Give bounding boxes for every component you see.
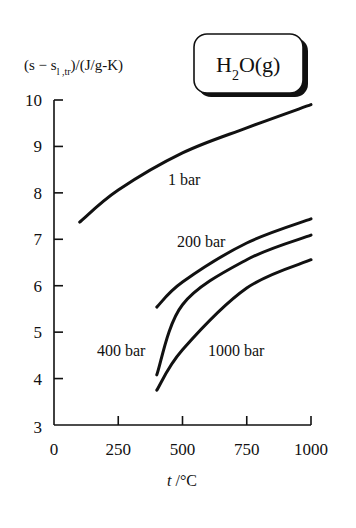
- y-tick-label: 10: [25, 91, 42, 110]
- y-tick-label: 5: [34, 323, 43, 342]
- y-tick-label: 3: [34, 418, 43, 437]
- y-axis-title: (s − sl ,tr)/(J/g-K): [24, 57, 123, 77]
- y-tick-label: 4: [34, 370, 43, 389]
- curve-label-1-bar: 1 bar: [168, 171, 201, 188]
- curve-label-200-bar: 200 bar: [177, 233, 226, 250]
- y-axis-title-subscript: l ,tr: [57, 66, 72, 77]
- x-tick-label: 1000: [294, 440, 328, 459]
- y-axis-title-prefix: (s − s: [24, 57, 57, 74]
- x-tick-label: 0: [50, 440, 59, 459]
- y-tick-label: 9: [34, 137, 43, 156]
- entropy-chart: (s − sl ,tr)/(J/g-K) H2O(g) 345678910025…: [0, 0, 356, 528]
- x-tick-label: 500: [170, 440, 196, 459]
- axes: 34567891002505007501000: [25, 91, 328, 459]
- y-tick-label: 7: [34, 230, 43, 249]
- x-tick-label: 750: [234, 440, 260, 459]
- curve-1000-bar: [157, 260, 311, 390]
- y-axis-title-suffix: )/(J/g-K): [71, 57, 124, 74]
- y-tick-label: 6: [34, 277, 43, 296]
- y-tick-label: 8: [34, 184, 43, 203]
- x-tick-label: 250: [106, 440, 132, 459]
- x-axis-title: t /°C: [167, 472, 197, 489]
- substance-badge: H2O(g): [194, 34, 308, 97]
- curve-label-400-bar: 400 bar: [97, 342, 146, 359]
- curve-1-bar: [80, 105, 311, 222]
- curve-label-1000-bar: 1000 bar: [208, 342, 265, 359]
